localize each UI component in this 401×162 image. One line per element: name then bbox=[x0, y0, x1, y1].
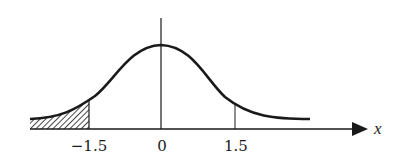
normal-curve-diagram: −1.5 0 1.5 x bbox=[0, 0, 401, 162]
tick-label-zero: 0 bbox=[157, 137, 167, 155]
density-curve bbox=[30, 45, 310, 119]
tick-label-pos: 1.5 bbox=[224, 137, 248, 155]
axis-label-x: x bbox=[373, 119, 382, 138]
tick-label-neg: −1.5 bbox=[71, 137, 107, 155]
x-axis-arrow-icon bbox=[352, 122, 368, 136]
